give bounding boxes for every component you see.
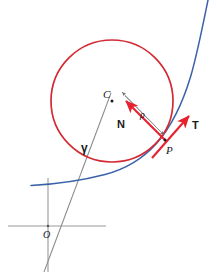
label-center-c: C (103, 89, 110, 100)
origin-point-O (47, 225, 49, 227)
curve-point-P (164, 139, 167, 142)
label-radius-rho: ρ (140, 110, 145, 120)
label-point-p: P (166, 145, 173, 156)
osculating-circle-figure: C N ρ T P γ O (0, 0, 217, 278)
normal-vector-N (126, 101, 165, 140)
plane-curve (31, 0, 208, 186)
label-normal-n: N (117, 119, 125, 130)
label-origin-o: O (43, 230, 50, 240)
figure-canvas (0, 0, 217, 278)
label-position-vector-gamma: γ (81, 142, 88, 154)
label-tangent-t: T (192, 120, 199, 131)
center-point-C (111, 100, 114, 103)
